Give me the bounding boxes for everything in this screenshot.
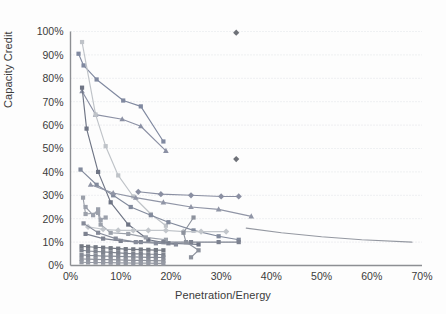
data-point-marker bbox=[174, 242, 178, 246]
data-point-marker bbox=[163, 227, 169, 233]
data-point-marker bbox=[217, 234, 221, 238]
data-point-marker bbox=[86, 249, 90, 253]
data-point-marker bbox=[139, 247, 143, 251]
data-point-marker bbox=[79, 244, 83, 248]
data-point-marker bbox=[189, 240, 193, 244]
data-point-marker bbox=[124, 247, 128, 251]
y-tick-label: 90% bbox=[42, 49, 63, 61]
data-point-marker bbox=[101, 246, 105, 250]
data-point-marker bbox=[237, 240, 241, 244]
data-point-marker bbox=[81, 221, 85, 225]
data-point-marker bbox=[161, 139, 165, 143]
data-point-marker bbox=[76, 52, 80, 56]
data-point-marker bbox=[104, 215, 108, 219]
data-point-marker bbox=[86, 245, 90, 249]
data-point-marker bbox=[83, 205, 87, 209]
data-point-marker bbox=[149, 213, 153, 217]
data-point-marker bbox=[94, 260, 98, 264]
data-point-marker bbox=[100, 226, 106, 232]
data-point-marker bbox=[96, 207, 100, 211]
data-point-marker bbox=[109, 200, 113, 204]
data-point-marker bbox=[81, 63, 85, 67]
x-tick-label: 50% bbox=[311, 270, 332, 282]
data-point-marker bbox=[121, 98, 125, 102]
data-point-marker bbox=[129, 205, 133, 209]
data-point-marker bbox=[166, 220, 170, 224]
series-line bbox=[183, 218, 198, 258]
data-point-marker bbox=[109, 261, 113, 265]
x-tick-labels: 0%10%20%30%40%50%60%70% bbox=[63, 270, 433, 282]
data-point-marker bbox=[116, 261, 120, 265]
data-point-marker bbox=[196, 248, 200, 252]
data-point-marker bbox=[154, 241, 158, 245]
data-point-marker bbox=[146, 261, 150, 265]
grid-lines bbox=[71, 32, 423, 243]
data-point-marker bbox=[80, 40, 84, 44]
data-point-marker bbox=[88, 182, 94, 187]
data-point-marker bbox=[94, 249, 98, 253]
data-point-marker bbox=[126, 232, 130, 236]
data-series bbox=[233, 156, 239, 162]
data-series bbox=[80, 86, 201, 247]
x-tick-label: 40% bbox=[261, 270, 282, 282]
data-point-marker bbox=[101, 236, 105, 240]
data-point-marker bbox=[83, 232, 87, 236]
series-line bbox=[91, 185, 252, 217]
y-tick-label: 20% bbox=[42, 213, 63, 225]
data-point-marker bbox=[154, 248, 158, 252]
data-point-marker bbox=[130, 227, 136, 233]
data-point-marker bbox=[81, 196, 85, 200]
y-tick-label: 30% bbox=[42, 189, 63, 201]
y-tick-label: 0% bbox=[48, 259, 63, 271]
data-point-marker bbox=[94, 254, 98, 258]
y-axis-title: Capacity Credit bbox=[2, 31, 14, 108]
x-tick-label: 0% bbox=[63, 270, 78, 282]
data-point-marker bbox=[181, 231, 185, 235]
data-point-marker bbox=[116, 173, 120, 177]
data-point-marker bbox=[101, 250, 105, 254]
y-tick-labels: 0%10%20%30%40%50%60%70%80%90%100% bbox=[37, 25, 64, 271]
data-point-marker bbox=[79, 253, 83, 257]
data-point-marker bbox=[124, 261, 128, 265]
data-point-marker bbox=[139, 104, 143, 108]
data-point-marker bbox=[139, 261, 143, 265]
data-point-marker bbox=[116, 247, 120, 251]
data-point-marker bbox=[99, 222, 103, 226]
y-tick-label: 40% bbox=[42, 166, 63, 178]
data-point-marker bbox=[146, 248, 150, 252]
y-tick-label: 70% bbox=[42, 96, 63, 108]
data-point-marker bbox=[84, 127, 88, 131]
data-point-marker bbox=[217, 240, 221, 244]
data-point-marker bbox=[109, 246, 113, 250]
x-axis-title: Penetration/Energy bbox=[0, 289, 446, 301]
data-point-marker bbox=[184, 240, 188, 244]
data-point-marker bbox=[109, 250, 113, 254]
y-tick-label: 60% bbox=[42, 119, 63, 131]
data-point-marker bbox=[236, 193, 242, 199]
data-point-marker bbox=[189, 255, 193, 259]
y-tick-label: 80% bbox=[42, 72, 63, 84]
data-point-marker bbox=[135, 189, 141, 195]
data-series bbox=[85, 224, 229, 235]
data-point-marker bbox=[154, 261, 158, 265]
data-point-marker bbox=[158, 191, 164, 197]
data-point-marker bbox=[78, 167, 82, 171]
series-layer bbox=[76, 30, 412, 266]
series-line bbox=[246, 228, 412, 242]
y-tick-label: 10% bbox=[42, 236, 63, 248]
data-point-marker bbox=[233, 30, 239, 36]
data-point-marker bbox=[101, 261, 105, 265]
data-point-marker bbox=[188, 192, 194, 198]
data-point-marker bbox=[96, 231, 100, 235]
data-point-marker bbox=[86, 253, 90, 257]
y-tick-label: 100% bbox=[37, 25, 64, 37]
data-series bbox=[246, 228, 412, 242]
x-tick-label: 30% bbox=[211, 270, 232, 282]
data-point-marker bbox=[86, 260, 90, 264]
data-point-marker bbox=[96, 170, 100, 174]
x-tick-label: 70% bbox=[411, 270, 432, 282]
data-series bbox=[80, 40, 168, 228]
data-point-marker bbox=[161, 261, 165, 265]
data-point-marker bbox=[126, 222, 130, 226]
data-point-marker bbox=[95, 77, 99, 81]
